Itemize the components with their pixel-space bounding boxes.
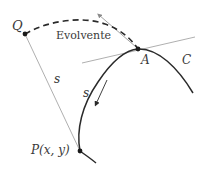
point-p-dot <box>78 149 83 154</box>
label-s-line: s <box>54 72 60 86</box>
label-a: A <box>140 53 150 67</box>
label-p: P(x, y) <box>30 143 70 157</box>
string-line-qp <box>25 34 80 151</box>
point-q-dot <box>23 32 28 37</box>
label-q: Q <box>12 18 23 33</box>
involute-diagram: Q Evolvente A C s s P(x, y) <box>0 0 205 171</box>
point-a-dot <box>136 47 141 52</box>
label-s-curve: s <box>83 86 89 100</box>
curve-c <box>79 49 193 163</box>
label-evolvente: Evolvente <box>56 29 111 42</box>
label-c: C <box>182 53 191 67</box>
